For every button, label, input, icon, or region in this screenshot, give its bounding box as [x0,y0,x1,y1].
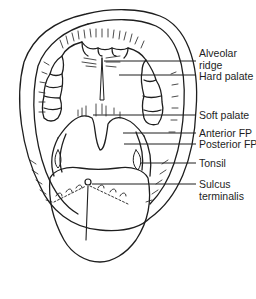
tongue-outline [50,167,150,262]
median-sulcus [86,186,88,240]
anterior-pillar-right [144,136,151,176]
foramen-cecum [85,179,91,185]
label-sulcus-terminalis: Sulcus terminalis [199,178,244,202]
label-sulcus-terminalis-line1: Sulcus [199,178,244,190]
label-sulcus-terminalis-line2: terminalis [199,190,244,202]
circumvallate-papillae [54,185,128,204]
posterior-pillar-left [60,134,66,172]
inner-lip-outline [88,20,184,204]
left-molars [43,56,64,121]
label-alveolar-ridge-line1: Alveolar [199,47,237,59]
label-posterior-fp: Posterior FP [199,138,256,150]
upper-teeth [62,42,146,60]
label-hard-palate: Hard palate [199,70,253,82]
label-tonsil: Tonsil [199,157,226,169]
palatine-raphe [100,58,104,100]
label-soft-palate: Soft palate [199,109,249,121]
oral-cavity-figure: Alveolar ridge Hard palate Soft palate A… [0,0,256,299]
tonsil-right [133,150,141,170]
label-alveolar-ridge: Alveolar ridge [199,47,237,71]
